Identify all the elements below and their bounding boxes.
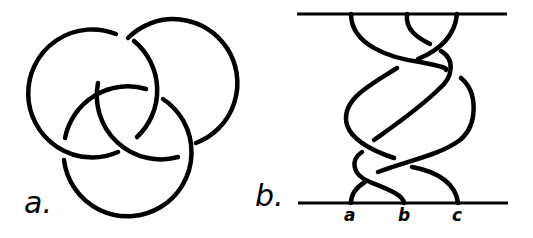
strand-label-b: b [398,205,410,225]
braid-strand [351,182,365,203]
braid-strand [351,14,446,70]
braid-strand [418,14,457,59]
strand-label-c: c [452,205,462,225]
borromean-rings [28,19,237,216]
strand-label-a: a [344,205,355,225]
panel-label-a: a. [24,185,52,220]
braid-diagram [297,14,508,203]
braid-strand [354,152,404,203]
panel-label-b: b. [255,178,284,213]
braid-strand [412,167,458,203]
braid-strand [407,14,430,44]
ring-right-inner [97,83,178,159]
ring-left [28,29,118,157]
braid-strand [346,68,397,158]
